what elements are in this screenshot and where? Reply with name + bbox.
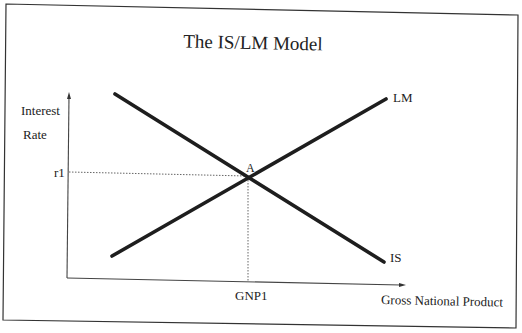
y-axis-label-line2: Rate — [23, 127, 47, 142]
x-axis — [67, 278, 401, 285]
x-axis-arrow-icon — [399, 283, 406, 287]
lm-curve-label: LM — [393, 90, 413, 105]
lm-curve — [112, 99, 386, 256]
islm-diagram: The IS/LM Model Interest Rate r1 GNP1 A … — [0, 0, 522, 333]
y-axis-arrow-icon — [67, 92, 71, 99]
y-axis — [67, 96, 69, 278]
diagram-title: The IS/LM Model — [183, 31, 323, 55]
equilibrium-point-label: A — [246, 161, 255, 175]
gnp1-tick-label: GNP1 — [235, 288, 268, 303]
r1-guide-line — [69, 172, 247, 176]
r1-tick-label: r1 — [54, 165, 65, 180]
x-axis-label: Gross National Product — [381, 292, 504, 310]
y-axis-label-line1: Interest — [21, 103, 60, 118]
is-curve-label: IS — [390, 250, 402, 265]
